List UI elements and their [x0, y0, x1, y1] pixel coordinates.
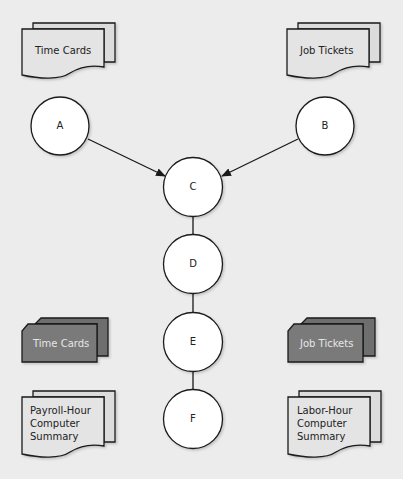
node-a-label: A	[30, 120, 90, 131]
labor-summary-line-3: Summary	[297, 430, 345, 443]
time-cards-top-label: Time Cards	[35, 44, 91, 57]
flowchart-canvas: Time Cards Job Tickets Time Cards Job Ti…	[0, 0, 403, 479]
edge-b-to-c	[222, 139, 298, 176]
node-d-label: D	[163, 258, 223, 269]
payroll-summary-line-3: Summary	[30, 430, 78, 443]
node-e-label: E	[163, 336, 223, 347]
job-tickets-bottom-label: Job Tickets	[300, 337, 353, 350]
node-b-label: B	[295, 120, 355, 131]
payroll-summary-line-1: Payroll-Hour	[30, 404, 91, 417]
job-tickets-top-label: Job Tickets	[300, 44, 353, 57]
node-f-label: F	[163, 413, 223, 424]
edge-a-to-c	[88, 139, 165, 176]
payroll-summary-line-2: Computer	[30, 417, 80, 430]
labor-summary-line-1: Labor-Hour	[297, 404, 352, 417]
time-cards-bottom-label: Time Cards	[33, 337, 89, 350]
labor-summary-line-2: Computer	[297, 417, 347, 430]
node-c-label: C	[163, 181, 223, 192]
